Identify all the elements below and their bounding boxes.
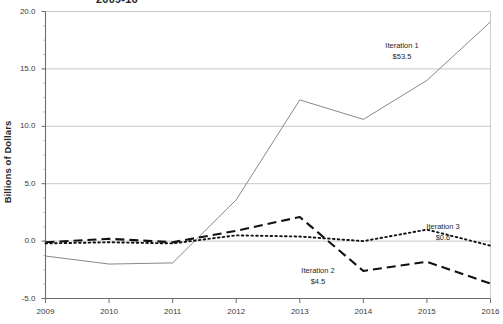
x-tick-label: 2013 <box>280 307 320 316</box>
x-tick-label: 2009 <box>26 307 66 316</box>
annotation-name: Iteration 1 <box>385 41 418 50</box>
annotation-series-3: Iteration 3$0.6 <box>398 222 488 243</box>
y-tick-label: 10.0 <box>10 121 36 130</box>
x-tick-label: 2011 <box>153 307 193 316</box>
annotation-series-2: Iteration 2$4.5 <box>273 266 363 287</box>
annotation-value: $0.6 <box>398 233 488 244</box>
x-tick-label: 2012 <box>216 307 256 316</box>
y-tick-label: -5.0 <box>10 294 36 303</box>
x-tick-label: 2014 <box>343 307 383 316</box>
x-tick-label: 2010 <box>89 307 129 316</box>
y-tick-label: 20.0 <box>10 7 36 16</box>
y-tick-label: 0.0 <box>10 236 36 245</box>
x-tick-label: 2016 <box>471 307 503 316</box>
annotation-name: Iteration 3 <box>426 222 459 231</box>
annotation-series-1: Iteration 1$53.5 <box>357 41 447 62</box>
chart-figure: 2009-16 Billions of Dollars 20.015.010.0… <box>0 0 503 324</box>
annotation-value: $4.5 <box>273 277 363 288</box>
y-tick-label: 15.0 <box>10 64 36 73</box>
y-tick-label: 5.0 <box>10 179 36 188</box>
x-tick-label: 2015 <box>407 307 447 316</box>
annotation-value: $53.5 <box>357 52 447 63</box>
annotation-name: Iteration 2 <box>301 266 334 275</box>
